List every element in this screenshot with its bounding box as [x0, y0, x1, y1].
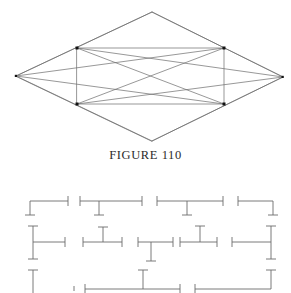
scanned-page: FIGURE 110	[0, 0, 291, 293]
rhombus-span-line-left-lower	[16, 76, 224, 104]
vertex-marker	[76, 47, 79, 50]
figure-caption: FIGURE 110	[0, 148, 291, 163]
vertex-marker	[223, 103, 226, 106]
vertex-marker	[76, 103, 79, 106]
vertex-marker	[15, 75, 17, 77]
rhombus-span-line-right-lower	[77, 77, 283, 104]
rhombus-span-line-right	[77, 48, 283, 77]
construction-line-right-top	[152, 12, 283, 77]
bracket-row-1	[25, 196, 278, 215]
bracket-row-2	[28, 226, 276, 261]
vertex-marker	[282, 76, 284, 78]
dimension-grid-svg	[0, 185, 291, 293]
figure-110-drawing	[0, 0, 291, 148]
rhombus-diagram-svg	[0, 0, 291, 148]
construction-line-left-top	[16, 12, 152, 76]
bracket-row-3	[28, 270, 276, 293]
construction-line-left-bottom	[16, 76, 152, 141]
rhombus-span-line-left	[16, 48, 224, 76]
dimension-bracket-grid-drawing	[0, 185, 291, 293]
construction-line-right-bottom	[152, 77, 283, 141]
vertex-marker	[223, 47, 226, 50]
